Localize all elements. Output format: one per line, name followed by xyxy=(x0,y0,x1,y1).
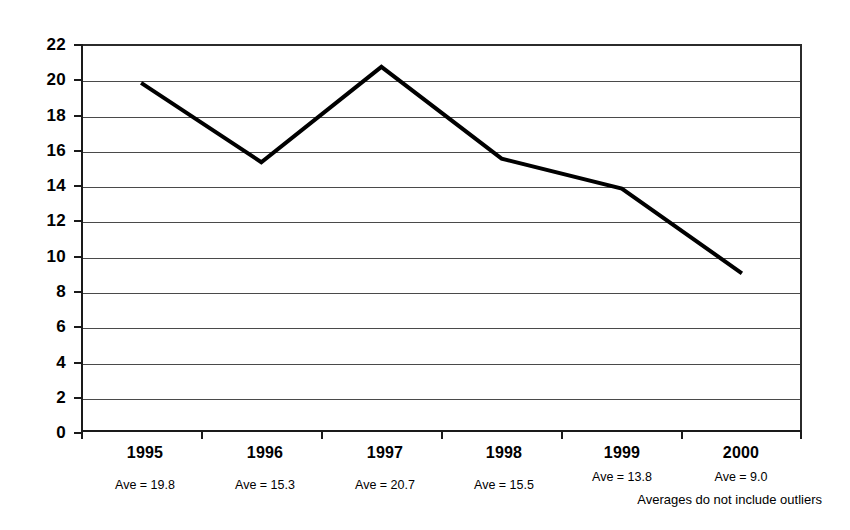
gridline xyxy=(83,152,800,153)
y-tick-mark xyxy=(74,150,83,152)
y-axis-label-4: 4 xyxy=(28,354,66,371)
x-tick-mark xyxy=(201,430,203,439)
x-axis-average-label: Ave = 9.0 xyxy=(681,470,801,484)
y-tick-mark xyxy=(74,220,83,222)
x-category-1998: 1998 Ave = 15.5 xyxy=(444,444,564,492)
gridline xyxy=(83,399,800,400)
x-axis-year-label: 1998 xyxy=(444,444,564,462)
y-axis-label-20: 20 xyxy=(28,71,66,88)
x-axis-average-label: Ave = 19.8 xyxy=(85,478,205,492)
y-tick-mark xyxy=(74,44,83,46)
y-tick-mark xyxy=(74,79,83,81)
chart-footnote: Averages do not include outliers xyxy=(637,492,822,507)
plot-area xyxy=(81,44,802,432)
x-tick-mark xyxy=(441,430,443,439)
x-category-2000: 2000 Ave = 9.0 xyxy=(681,444,801,484)
gridline xyxy=(83,293,800,294)
x-category-1995: 1995 Ave = 19.8 xyxy=(85,444,205,492)
y-axis-label-22: 22 xyxy=(28,36,66,53)
x-tick-mark xyxy=(561,430,563,439)
y-tick-mark xyxy=(74,291,83,293)
y-tick-mark xyxy=(74,326,83,328)
y-axis-label-10: 10 xyxy=(28,248,66,265)
y-tick-mark xyxy=(74,362,83,364)
x-axis-average-label: Ave = 15.3 xyxy=(205,478,325,492)
x-category-1999: 1999 Ave = 13.8 xyxy=(562,444,682,484)
gridline xyxy=(83,187,800,188)
x-axis-year-label: 1999 xyxy=(562,444,682,462)
x-category-1996: 1996 Ave = 15.3 xyxy=(205,444,325,492)
x-tick-mark xyxy=(321,430,323,439)
gridline xyxy=(83,117,800,118)
y-tick-mark xyxy=(74,185,83,187)
y-axis-label-8: 8 xyxy=(28,283,66,300)
x-tick-mark xyxy=(81,430,83,439)
x-category-1997: 1997 Ave = 20.7 xyxy=(325,444,445,492)
y-axis-label-18: 18 xyxy=(28,107,66,124)
x-axis-average-label: Ave = 20.7 xyxy=(325,478,445,492)
x-axis-year-label: 1995 xyxy=(85,444,205,462)
x-tick-mark xyxy=(681,430,683,439)
x-axis-average-label: Ave = 13.8 xyxy=(562,470,682,484)
y-tick-mark xyxy=(74,256,83,258)
y-tick-mark xyxy=(74,397,83,399)
x-axis-average-label: Ave = 15.5 xyxy=(444,478,564,492)
x-axis-year-label: 1997 xyxy=(325,444,445,462)
y-axis-label-12: 12 xyxy=(28,212,66,229)
gridline xyxy=(83,81,800,82)
y-axis-label-6: 6 xyxy=(28,318,66,335)
gridline xyxy=(83,364,800,365)
y-axis-label-16: 16 xyxy=(28,142,66,159)
gridline xyxy=(83,258,800,259)
y-axis-label-14: 14 xyxy=(28,177,66,194)
x-axis-year-label: 1996 xyxy=(205,444,325,462)
gridline xyxy=(83,328,800,329)
y-axis-label-2: 2 xyxy=(28,389,66,406)
x-tick-mark xyxy=(800,430,802,439)
y-axis-label-0: 0 xyxy=(28,424,66,441)
gridline xyxy=(83,222,800,223)
chart-page: 22 20 18 16 14 12 10 8 6 4 2 0 1995 Ave … xyxy=(0,0,850,530)
x-axis-year-label: 2000 xyxy=(681,444,801,462)
y-tick-mark xyxy=(74,115,83,117)
